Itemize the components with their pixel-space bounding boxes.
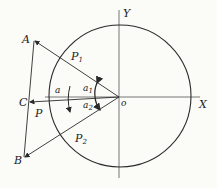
label-alpha1: a1 — [83, 83, 93, 95]
label-P1: P1 — [70, 50, 83, 64]
label-B: B — [13, 154, 22, 167]
vector-OC — [30, 97, 119, 102]
label-alpha2: a2 — [83, 100, 93, 112]
circle — [49, 25, 191, 167]
label-alpha: a — [55, 85, 60, 95]
angle-arc-alpha — [68, 86, 70, 112]
label-A: A — [21, 33, 30, 46]
label-P: P — [34, 107, 43, 120]
label-P2: P2 — [74, 132, 87, 146]
label-Y: Y — [123, 7, 132, 20]
angle-arc-alpha1 — [95, 83, 97, 97]
label-X: X — [198, 98, 208, 111]
label-origin: o — [121, 98, 127, 108]
angle-arc-alpha2 — [95, 97, 100, 110]
label-C: C — [19, 96, 28, 109]
vector-diagram: A C B P P1 P2 X Y o a a1 a2 — [0, 0, 217, 188]
